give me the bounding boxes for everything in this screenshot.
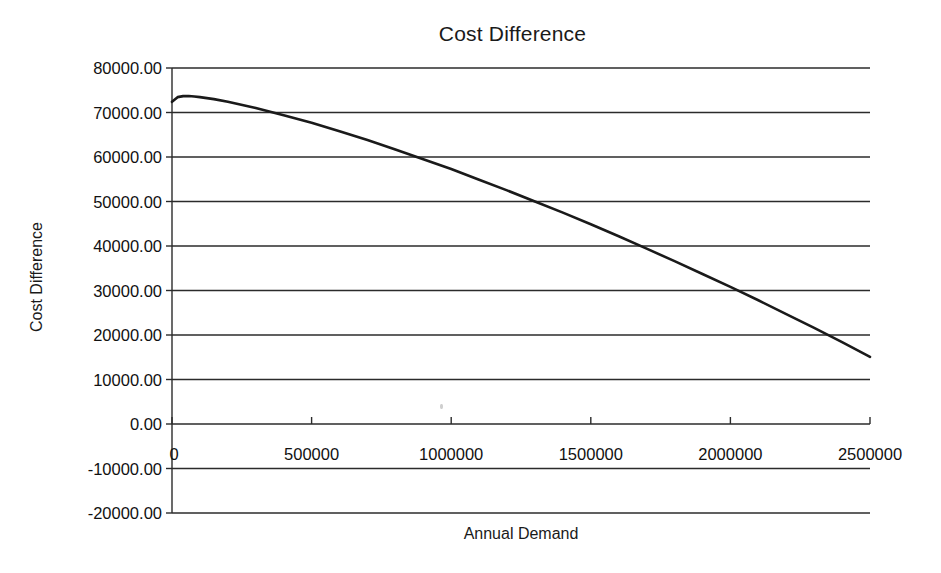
y-tick-label: 50000.00 bbox=[42, 192, 162, 211]
data-series bbox=[172, 96, 870, 357]
y-tick-label-group: 80000.0070000.0060000.0050000.0040000.00… bbox=[36, 0, 162, 573]
x-tick-label: 2500000 bbox=[838, 445, 902, 464]
chart-title-text: Cost Difference bbox=[439, 22, 586, 46]
y-tick-label: 30000.00 bbox=[42, 281, 162, 300]
x-tick-label: 0 bbox=[169, 445, 178, 464]
chart-figure: Cost Difference 80000.0070000.0060000.00… bbox=[0, 0, 941, 573]
x-tick-label: 2000000 bbox=[698, 445, 762, 464]
scan-artifact-speck bbox=[440, 404, 443, 409]
y-tick-label: -10000.00 bbox=[42, 459, 162, 478]
x-tick-label: 1000000 bbox=[419, 445, 483, 464]
series-line bbox=[172, 96, 870, 357]
y-tick-label: 70000.00 bbox=[42, 103, 162, 122]
y-tick-label: 20000.00 bbox=[42, 326, 162, 345]
x-tick-label: 1500000 bbox=[559, 445, 623, 464]
y-tick-label: 0.00 bbox=[42, 415, 162, 434]
x-tick-label: 500000 bbox=[284, 445, 339, 464]
y-tick-label: -20000.00 bbox=[42, 504, 162, 523]
y-tick-label: 80000.00 bbox=[42, 59, 162, 78]
y-axis-title: Cost Difference bbox=[28, 197, 46, 357]
y-tick-label: 60000.00 bbox=[42, 148, 162, 167]
x-axis-ticks bbox=[172, 417, 870, 424]
grid-lines bbox=[172, 68, 870, 513]
y-tick-label: 40000.00 bbox=[42, 237, 162, 256]
y-tick-label: 10000.00 bbox=[42, 370, 162, 389]
x-axis-title: Annual Demand bbox=[172, 525, 870, 543]
